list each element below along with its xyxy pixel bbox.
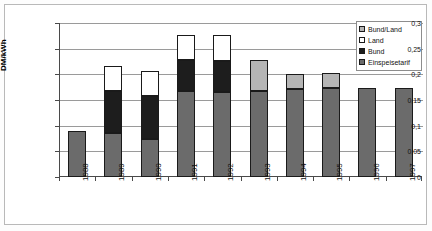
x-axis-tick-label: 1993: [263, 163, 272, 181]
x-axis-tick-label: 1994: [299, 163, 308, 181]
legend-item-label: Land: [368, 37, 384, 44]
x-axis-tick-label: 1990: [154, 163, 163, 181]
bar-segment-bund[interactable]: [141, 96, 159, 139]
y-axis-labels: [5, 5, 59, 159]
bar-segment-bund[interactable]: [177, 60, 195, 91]
bar-segment-land[interactable]: [177, 35, 195, 61]
legend-swatch-icon: [359, 59, 365, 65]
x-axis-tick-label: 1991: [190, 163, 199, 181]
chart-figure: DM/kWh 198819891990199119921993199419951…: [0, 0, 432, 231]
legend-item-bund-land[interactable]: Bund/Land: [359, 24, 419, 34]
legend-item-land[interactable]: Land: [359, 35, 419, 45]
y-axis-tick: [55, 49, 59, 50]
y-axis-tick-label: 0,3: [411, 20, 421, 27]
y-axis-tick: [55, 74, 59, 75]
legend-item-label: Bund/Land: [368, 26, 402, 33]
bar-segment-land[interactable]: [104, 66, 122, 92]
x-axis-tick-label: 1988: [81, 163, 90, 181]
legend-item-label: Bund: [368, 48, 384, 55]
legend-swatch-icon: [359, 26, 365, 32]
x-axis-tick-label: 1995: [335, 163, 344, 181]
legend-item-einspeisetarif[interactable]: Einspeisetarif: [359, 57, 419, 67]
x-axis-labels: 1988198919901991199219931994199519961997: [59, 181, 422, 221]
bar-segment-bund-land[interactable]: [286, 74, 304, 89]
bar-slot: [241, 23, 277, 177]
x-axis-tick-label: 1992: [226, 163, 235, 181]
x-axis-tick-label: 1997: [408, 163, 417, 181]
y-axis-tick: [55, 126, 59, 127]
bar-segment-bund-land[interactable]: [250, 60, 268, 91]
y-axis-tick-label: 0,1: [411, 122, 421, 129]
bar-slot: [204, 23, 240, 177]
bar-slot: [59, 23, 95, 177]
x-axis-tick-label: 1996: [372, 163, 381, 181]
bar-slot: [277, 23, 313, 177]
chart-outer-frame: DM/kWh 198819891990199119921993199419951…: [4, 4, 427, 225]
y-axis-tick-label: 0: [417, 174, 421, 181]
y-axis-tick: [55, 23, 59, 24]
bar-segment-land[interactable]: [213, 35, 231, 61]
y-axis-tick: [55, 151, 59, 152]
bar-segment-bund[interactable]: [104, 91, 122, 133]
legend-item-label: Einspeisetarif: [368, 59, 410, 66]
bar-slot: [168, 23, 204, 177]
legend-swatch-icon: [359, 37, 365, 43]
y-axis-tick-label: 0,2: [411, 71, 421, 78]
bar-slot: [132, 23, 168, 177]
y-axis-tick-label: 0,25: [407, 45, 421, 52]
bar-segment-bund[interactable]: [213, 61, 231, 92]
y-axis-tick: [55, 177, 59, 178]
y-axis-tick-label: 0,05: [407, 148, 421, 155]
legend-swatch-icon: [359, 48, 365, 54]
y-axis-tick: [55, 100, 59, 101]
y-axis-tick-label: 0,15: [407, 97, 421, 104]
bar-segment-land[interactable]: [141, 71, 159, 96]
x-axis-tick-label: 1989: [117, 163, 126, 181]
bar-slot: [313, 23, 349, 177]
bar-slot: [95, 23, 131, 177]
bar-segment-bund-land[interactable]: [322, 73, 340, 88]
